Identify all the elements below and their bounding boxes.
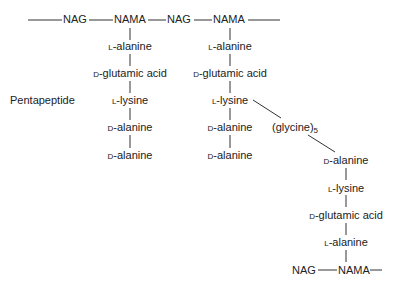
- nag-label: NAG: [63, 13, 87, 26]
- residue-label: L-alanine: [108, 40, 152, 54]
- residue-label: D-alanine: [208, 149, 253, 163]
- glycine-bridge-label: (glycine)5: [272, 121, 318, 137]
- residue-label: D-alanine: [324, 154, 369, 168]
- nama-label: NAMA: [114, 13, 146, 26]
- peptidoglycan-diagram: NAG NAMA NAG NAMA Pentapeptide L-alanine…: [0, 0, 394, 285]
- residue-label: D-glutamic acid: [93, 67, 167, 81]
- nama-label: NAMA: [213, 13, 245, 26]
- residue-label: D-alanine: [108, 121, 153, 135]
- residue-label: L-lysine: [112, 94, 148, 108]
- residue-label: D-glutamic acid: [193, 67, 267, 81]
- nag-label: NAG: [292, 264, 316, 277]
- pentapeptide-label: Pentapeptide: [10, 94, 75, 107]
- nama-label: NAMA: [338, 264, 370, 277]
- residue-label: D-alanine: [108, 149, 153, 163]
- residue-label: L-alanine: [324, 236, 368, 250]
- residue-label: D-alanine: [208, 121, 253, 135]
- residue-label: L-lysine: [212, 94, 248, 108]
- nag-label: NAG: [167, 13, 191, 26]
- residue-label: D-glutamic acid: [309, 209, 383, 223]
- residue-label: L-alanine: [208, 40, 252, 54]
- residue-label: L-lysine: [328, 182, 364, 196]
